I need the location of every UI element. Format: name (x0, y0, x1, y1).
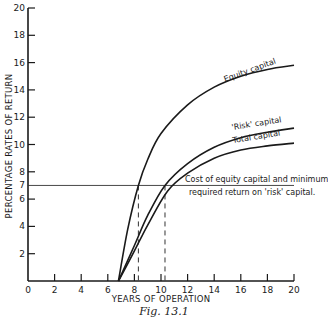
total-capital-label: Total capital (231, 129, 281, 146)
curves (118, 65, 294, 281)
x-tick-label: 16 (235, 285, 247, 295)
line-chart: 0246810121416182024678101214161820 PERCE… (0, 0, 328, 324)
equity-capital-curve (118, 65, 294, 281)
y-tick-label: 2 (19, 249, 25, 259)
x-tick-label: 6 (105, 285, 111, 295)
y-tick-label: 6 (19, 194, 25, 204)
y-tick-label: 8 (19, 167, 25, 177)
x-tick-label: 0 (25, 285, 31, 295)
y-axis-label: PERCENTAGE RATES OF RETURN (4, 74, 14, 219)
annotations: PERCENTAGE RATES OF RETURN YEARS OF OPER… (4, 57, 328, 304)
equity-capital-label: Equity capital (223, 57, 277, 84)
axes: 0246810121416182024678101214161820 (14, 3, 300, 295)
x-tick-label: 20 (288, 285, 300, 295)
y-tick-label: 20 (14, 3, 26, 13)
risk-capital-curve (118, 128, 294, 281)
x-axis-label: YEARS OF OPERATION (111, 294, 211, 304)
x-tick-label: 2 (52, 285, 58, 295)
y-tick-label: 7 (19, 180, 25, 190)
x-tick-label: 18 (262, 285, 274, 295)
y-tick-label: 12 (14, 112, 25, 122)
y-tick-label: 10 (14, 140, 26, 150)
y-tick-label: 16 (14, 58, 26, 68)
y-tick-label: 4 (19, 221, 25, 231)
figure-caption: Fig. 13.1 (0, 305, 328, 318)
x-tick-label: 4 (78, 285, 84, 295)
total-capital-curve (118, 143, 294, 281)
reference-line-label-1: Cost of equity capital and minimum (185, 175, 328, 184)
reference-line-label-2: required return on 'risk' capital. (189, 188, 315, 197)
y-tick-label: 14 (14, 85, 26, 95)
y-tick-label: 18 (14, 30, 26, 40)
